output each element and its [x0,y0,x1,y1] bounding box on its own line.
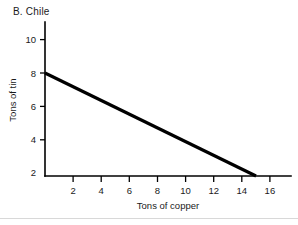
x-tick-label-4: 4 [99,185,104,196]
bottom-divider [0,218,298,219]
x-tick-label-10: 10 [180,185,191,196]
y-tick-label-2: 2 [31,167,36,178]
y-axis-title: Tons of tin [7,78,18,121]
x-axis-title: Tons of copper [137,200,199,211]
x-tick-label-16: 16 [265,185,276,196]
chart-figure: B. Chile 10 8 6 4 2 [0,0,298,225]
y-tick-label-6: 6 [31,101,36,112]
plot-area: 10 8 6 4 2 2 4 6 8 10 12 14 16 Tons of c… [0,0,298,225]
ppf-line-series [45,73,256,176]
x-tick-label-12: 12 [208,185,219,196]
x-axis-ticks [73,176,270,182]
x-tick-label-6: 6 [127,185,132,196]
y-tick-label-4: 4 [31,134,36,145]
x-tick-label-2: 2 [70,185,75,196]
x-tick-label-8: 8 [155,185,160,196]
y-tick-label-10: 10 [25,34,36,45]
x-tick-label-14: 14 [237,185,248,196]
y-tick-label-8: 8 [31,68,36,79]
